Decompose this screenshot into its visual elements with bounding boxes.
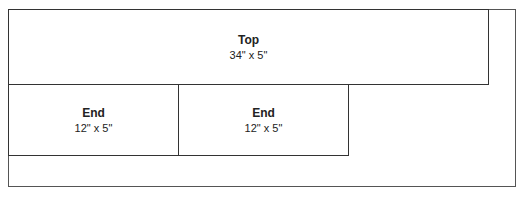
piece-end-1: End 12" x 5": [8, 84, 179, 156]
piece-end-2: End 12" x 5": [178, 84, 349, 156]
piece-dimensions: 34" x 5": [230, 48, 268, 62]
piece-label: End: [252, 106, 275, 121]
piece-dimensions: 12" x 5": [245, 121, 283, 135]
piece-label: End: [82, 106, 105, 121]
piece-label: Top: [238, 33, 259, 48]
piece-dimensions: 12" x 5": [75, 121, 113, 135]
piece-top: Top 34" x 5": [8, 9, 489, 85]
